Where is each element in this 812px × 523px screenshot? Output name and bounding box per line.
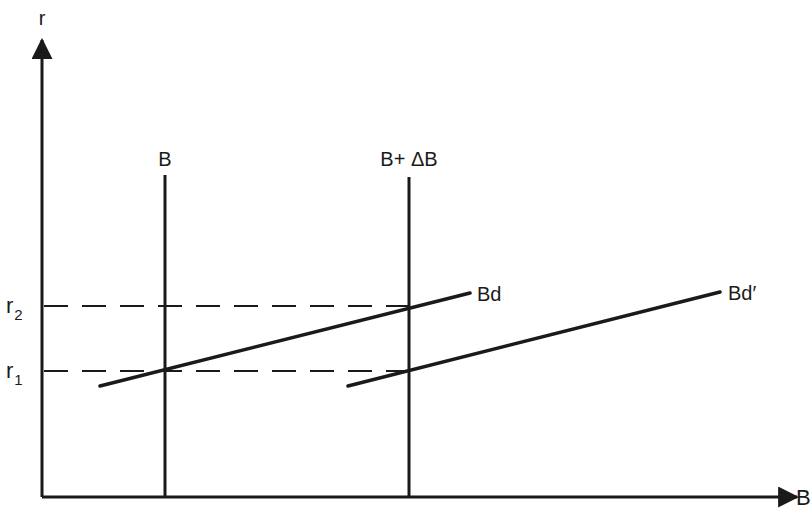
rate-level-lines: r2r1 (6, 293, 409, 388)
y-axis-label: r (39, 7, 46, 29)
supply-line-label: B+ ΔB (380, 148, 437, 170)
demand-line-label: Bd′ (728, 282, 756, 304)
rate-level-label: r2 (6, 293, 23, 323)
x-axis-label: B (796, 485, 811, 510)
rate-level-label: r1 (6, 358, 23, 388)
supply-lines: BB+ ΔB (158, 148, 437, 497)
supply-line-label: B (158, 148, 171, 170)
demand-line-label: Bd (477, 283, 501, 305)
bond-market-diagram: r B r2r1 BB+ ΔB BdBd′ (0, 0, 812, 523)
